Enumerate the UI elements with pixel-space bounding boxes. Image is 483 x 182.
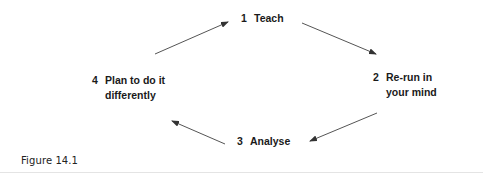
node-label-line2: your mind [373,85,437,100]
node-plan: 4Plan to do it differently [92,73,165,103]
arrow-analyse-to-plan [172,121,225,144]
bottom-divider [0,172,483,173]
node-label: Plan to do it [105,74,165,86]
node-number: 1 [241,11,254,26]
arrow-plan-to-teach [155,22,228,54]
node-number: 3 [237,134,250,149]
node-analyse: 3Analyse [237,134,290,149]
arrow-rerun-to-analyse [310,113,377,141]
node-label-line2: differently [92,88,165,103]
node-number: 4 [92,73,105,88]
node-rerun: 2Re-run in your mind [373,70,437,100]
figure-caption: Figure 14.1 [21,155,78,166]
arrow-teach-to-rerun [302,23,376,54]
node-teach: 1Teach [241,11,284,26]
node-label: Analyse [250,135,290,147]
node-label: Re-run in [386,71,432,83]
node-label: Teach [254,12,284,24]
cycle-diagram: 1Teach 2Re-run in your mind 3Analyse 4Pl… [0,0,483,182]
node-number: 2 [373,70,386,85]
